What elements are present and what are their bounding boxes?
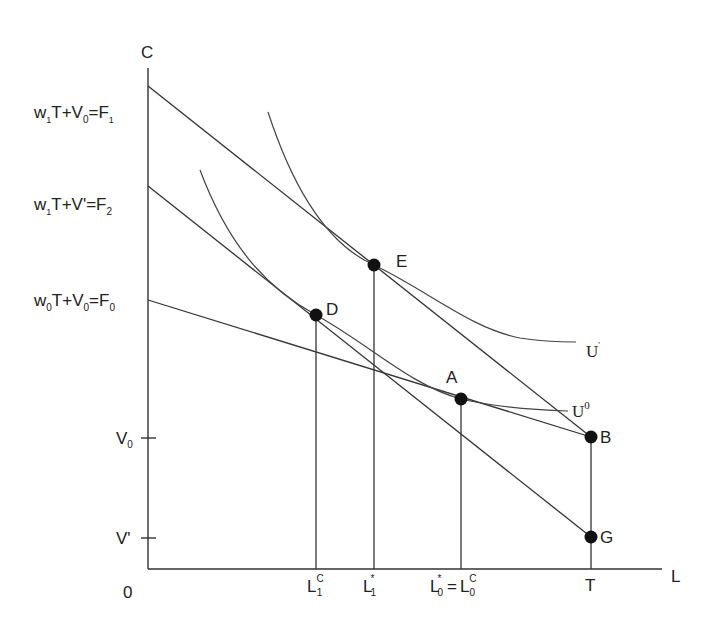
indifference-curve-u-prime xyxy=(268,112,576,342)
point-b xyxy=(585,431,598,444)
budget-line-f0 xyxy=(148,300,591,437)
x-label-l1c: LC1 xyxy=(307,573,324,598)
budget-line-f2 xyxy=(148,186,591,537)
origin-label: 0 xyxy=(123,583,132,602)
curve-label-u0: U0 xyxy=(572,399,590,421)
labor-leisure-diagram: C L 0 E D A B G U' U0 w1T+V0=F1 w1T+V'=F… xyxy=(0,0,709,625)
x-axis-label: L xyxy=(671,567,680,586)
point-label-b: B xyxy=(600,428,611,447)
point-g xyxy=(585,531,598,544)
x-label-t: T xyxy=(585,576,595,595)
point-label-e: E xyxy=(396,252,407,271)
y-axis-label: C xyxy=(141,43,153,62)
y-label-f0: w0T+V0=F0 xyxy=(33,291,115,313)
point-label-d: D xyxy=(326,300,338,319)
point-a xyxy=(455,393,468,406)
curve-label-u-prime: U' xyxy=(586,340,600,361)
y-label-f2: w1T+V'=F2 xyxy=(33,195,113,217)
y-label-f1: w1T+V0=F1 xyxy=(33,103,114,125)
point-e xyxy=(368,259,381,272)
y-label-vprime: V' xyxy=(116,529,131,548)
x-label-l1star: L*1 xyxy=(363,573,376,598)
y-label-v0: V0 xyxy=(116,429,133,450)
point-d xyxy=(310,309,323,322)
point-label-a: A xyxy=(446,368,458,387)
x-label-l0star-eq-l0c: L*0=LC0 xyxy=(430,573,477,598)
point-label-g: G xyxy=(600,528,613,547)
